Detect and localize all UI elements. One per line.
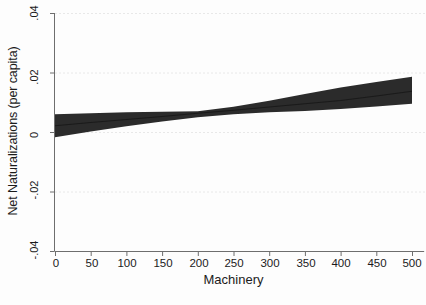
axis-ticks-group [50, 14, 413, 257]
plot-area [0, 0, 426, 305]
gridlines-group [55, 14, 425, 252]
chart-figure: Net Naturalizations (per capita) .04 .02… [0, 0, 426, 305]
confidence-interval-band [55, 77, 412, 138]
